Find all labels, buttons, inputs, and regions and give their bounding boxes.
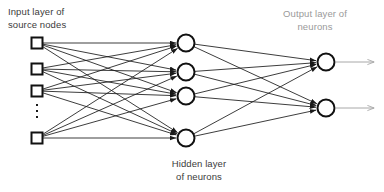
vertical-ellipsis-icon — [34, 104, 40, 122]
connection-edge — [42, 46, 178, 132]
hidden-layer-label: Hidden layer of neurons — [132, 158, 266, 183]
output-node-1 — [318, 54, 335, 71]
connection-edge — [42, 72, 176, 134]
input-node-4 — [32, 133, 43, 144]
connection-edge — [43, 73, 176, 90]
output-node-2 — [318, 100, 335, 117]
input-node-1 — [32, 38, 43, 49]
output-layer-label: Output layer of neurons — [257, 8, 373, 33]
hidden-node-1 — [178, 35, 195, 52]
connection-edge — [195, 63, 316, 72]
connection-edge — [43, 99, 177, 137]
connection-edge — [43, 69, 176, 72]
hidden-node-3 — [178, 88, 195, 105]
connection-edge — [194, 67, 317, 134]
hidden-layer-nodes — [178, 35, 195, 147]
edges-input-to-hidden — [42, 43, 178, 138]
input-layer-label: Input layer of source nodes — [8, 6, 66, 31]
output-layer-nodes — [318, 54, 335, 117]
hidden-node-4 — [178, 130, 195, 147]
hidden-node-2 — [178, 64, 195, 81]
edges-hidden-to-output — [194, 44, 317, 136]
connection-edge — [42, 76, 176, 136]
neural-network-diagram: Input layer of source nodes Output layer… — [0, 0, 384, 192]
connection-edge — [195, 97, 316, 107]
connection-edge — [194, 47, 317, 104]
output-exit-arrows — [335, 62, 374, 108]
input-layer-nodes — [32, 38, 43, 144]
connection-edge — [195, 44, 316, 60]
connection-edge — [43, 93, 177, 135]
input-node-3 — [32, 86, 43, 97]
input-node-2 — [32, 64, 43, 75]
